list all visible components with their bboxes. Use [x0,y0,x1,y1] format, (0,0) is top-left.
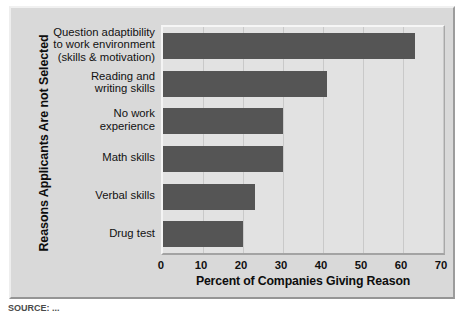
gridline [443,27,444,253]
category-label-line: writing skills [45,82,155,95]
bar [163,108,283,134]
x-tick-label: 0 [146,259,176,271]
category-label-line: experience [45,120,155,133]
bar [163,33,415,59]
x-tick-label: 20 [226,259,256,271]
x-axis-tick-labels: 010203040506070 [161,259,445,273]
category-label-line: Question adaptibility [45,26,155,39]
category-label-line: (skills & motivation) [45,51,155,64]
x-tick-label: 30 [266,259,296,271]
category-label: Verbal skills [45,189,155,202]
x-tick-label: 40 [306,259,336,271]
x-tick-label: 70 [426,259,456,271]
bar [163,71,327,97]
category-label-line: Verbal skills [45,189,155,202]
category-label-line: No work [45,107,155,120]
category-label-line: to work environment [45,38,155,51]
category-label: Math skills [45,151,155,164]
category-label-line: Reading and [45,70,155,83]
category-label: Question adaptibilityto work environment… [45,26,155,64]
bar-chart-figure: Reasons Applicants Are not Selected Ques… [0,0,464,313]
category-label: No workexperience [45,107,155,133]
plot-area [161,25,445,255]
x-axis-title: Percent of Companies Giving Reason [161,274,445,288]
bar [163,221,243,247]
x-tick-label: 10 [186,259,216,271]
bar [163,184,255,210]
bar-series [163,27,443,253]
category-label-line: Drug test [45,227,155,240]
category-label: Drug test [45,227,155,240]
chart-card: Reasons Applicants Are not Selected Ques… [9,6,455,299]
category-label-line: Math skills [45,151,155,164]
category-label: Reading andwriting skills [45,70,155,96]
source-note: SOURCE: ... [8,303,60,313]
y-axis-category-labels: Question adaptibilityto work environment… [45,25,155,255]
x-tick-label: 60 [386,259,416,271]
bar [163,146,283,172]
x-tick-label: 50 [346,259,376,271]
